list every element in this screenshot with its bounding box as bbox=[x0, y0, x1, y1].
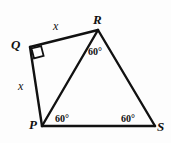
geometry-canvas bbox=[0, 0, 171, 143]
segment-qr bbox=[30, 30, 98, 47]
segment-qp bbox=[30, 47, 42, 126]
angle-label-r: 60° bbox=[88, 47, 102, 57]
geometry-figure: Q R P S x x 60° 60° 60° bbox=[0, 0, 171, 143]
side-length-label-qr: x bbox=[53, 20, 58, 32]
segment-pr-diagonal bbox=[42, 30, 98, 126]
vertex-label-r: R bbox=[93, 13, 102, 26]
vertex-label-p: P bbox=[29, 118, 37, 131]
angle-label-s: 60° bbox=[121, 114, 135, 124]
vertex-label-s: S bbox=[157, 120, 164, 133]
right-angle-marker-icon bbox=[32, 46, 44, 58]
angle-label-p: 60° bbox=[55, 114, 69, 124]
segment-rs bbox=[98, 30, 155, 126]
vertex-label-q: Q bbox=[11, 38, 20, 51]
side-length-label-qp: x bbox=[18, 80, 23, 92]
